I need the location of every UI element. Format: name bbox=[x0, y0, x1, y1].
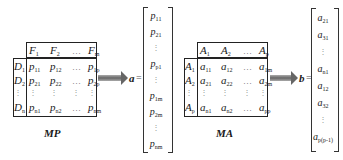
vector-entry: ⋮ bbox=[308, 46, 338, 58]
matrix-cell: … bbox=[72, 60, 81, 73]
matrix-cell: … bbox=[72, 74, 81, 87]
row-header: ⋮ bbox=[185, 89, 193, 97]
arrow-right-icon bbox=[98, 75, 122, 81]
vector-entry: ap(p-1) bbox=[308, 131, 338, 146]
matrix-cell: ⋮ bbox=[221, 89, 229, 97]
column-header: F2 bbox=[50, 44, 60, 60]
matrix-cell: ⋮ bbox=[200, 89, 208, 97]
matrix-cell: ⋮ bbox=[88, 89, 96, 97]
column-header: … bbox=[243, 44, 252, 57]
matrix-cell: ⋮ bbox=[29, 89, 37, 97]
vector-entry: ⋮ bbox=[308, 114, 338, 126]
vector-entry: p1m bbox=[141, 90, 171, 105]
column-header: A2 bbox=[221, 44, 231, 60]
matrix-cell: an2 bbox=[221, 101, 233, 117]
vector-entry: an1 bbox=[308, 63, 338, 78]
vector-entry: a32 bbox=[308, 97, 338, 112]
matrix-cell: ⋮ bbox=[259, 89, 267, 97]
matrix-cell: pn1 bbox=[29, 101, 41, 117]
row-header: Ap bbox=[185, 101, 195, 117]
matrix-cell: … bbox=[243, 60, 252, 73]
matrix-cell: app bbox=[259, 101, 271, 117]
vector-entry: p2m bbox=[141, 106, 171, 121]
vector-entry: pnm bbox=[141, 138, 171, 153]
row-header: Dn bbox=[14, 101, 25, 117]
matrix-cell: ⋮ bbox=[72, 89, 80, 97]
column-header: F1 bbox=[29, 44, 39, 60]
column-header: A1 bbox=[200, 44, 210, 60]
vector-entry: ⋮ bbox=[141, 42, 171, 54]
column-header: Fm bbox=[88, 44, 99, 60]
mp-caption: MP bbox=[44, 127, 61, 139]
matrix-cell: an1 bbox=[200, 101, 212, 117]
column-header: Ap bbox=[259, 44, 269, 60]
vector-entry: a31 bbox=[308, 29, 338, 44]
matrix-cell: ⋮ bbox=[243, 89, 251, 97]
arrow-right-icon bbox=[270, 75, 292, 81]
row-header: ⋮ bbox=[14, 89, 22, 97]
vector-entry: p11 bbox=[141, 10, 171, 25]
vector-entry: pp1 bbox=[141, 58, 171, 73]
matrix-cell: … bbox=[243, 101, 252, 114]
vector-entry: ⋮ bbox=[141, 74, 171, 86]
column-header: … bbox=[72, 44, 81, 57]
ma-caption: MA bbox=[216, 127, 233, 139]
matrix-cell: … bbox=[72, 101, 81, 114]
matrix-cell: ⋮ bbox=[50, 89, 58, 97]
vector-entry: p21 bbox=[141, 26, 171, 41]
matrix-cell: pn2 bbox=[50, 101, 62, 117]
matrix-cell: pnm bbox=[88, 101, 101, 117]
vector-a-label: a bbox=[129, 72, 135, 84]
vector-entry: a12 bbox=[308, 80, 338, 95]
matrix-cell: … bbox=[243, 74, 252, 87]
vector-entry: a21 bbox=[308, 12, 338, 27]
vector-b-label: b bbox=[299, 72, 305, 84]
vector-entry: ⋮ bbox=[141, 122, 171, 134]
